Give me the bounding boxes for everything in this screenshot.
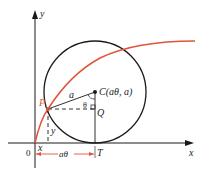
- right-angle-marker-icon: [91, 105, 95, 109]
- x-axis-label: x: [188, 147, 194, 158]
- y-axis-arrow-icon: [32, 10, 38, 19]
- arrow-right-icon: [89, 152, 94, 156]
- point-q-label: Q: [97, 107, 105, 118]
- angle-label: θ: [83, 101, 87, 110]
- y-axis-label: y: [39, 8, 45, 19]
- x-axis-arrow-icon: [185, 140, 194, 146]
- arc-length-label: aθ: [59, 149, 69, 159]
- origin-label: 0: [26, 148, 31, 158]
- x-coord-label: x: [37, 142, 43, 153]
- center-point: [93, 90, 97, 94]
- point-c-label: C(aθ, a): [99, 86, 133, 98]
- cycloid-diagram: y x 0 P C(aθ, a) Q T a θ y x aθ: [0, 0, 207, 178]
- y-coord-label: y: [50, 125, 56, 136]
- point-p: [46, 107, 50, 111]
- point-p-label: P: [38, 97, 45, 108]
- angle-arc-icon: [88, 95, 95, 100]
- point-t-label: T: [97, 147, 104, 158]
- radius-label: a: [69, 89, 74, 100]
